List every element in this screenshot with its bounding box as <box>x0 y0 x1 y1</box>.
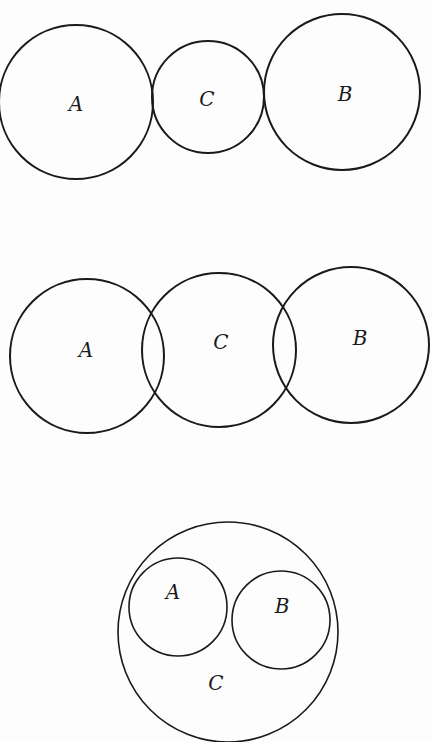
venn-diagrams-canvas: A C B A C B C A B <box>0 0 433 742</box>
circle-a <box>129 558 227 656</box>
label-a: A <box>164 580 180 604</box>
diagram-contained: C A B <box>118 522 338 742</box>
diagram-tangent: A C B <box>0 14 420 179</box>
circle-b <box>232 571 330 669</box>
label-c: C <box>208 671 223 695</box>
label-b: B <box>337 82 353 106</box>
label-c: C <box>199 87 214 111</box>
label-a: A <box>67 92 83 116</box>
circle-c-outer <box>118 522 338 742</box>
label-a: A <box>77 338 93 362</box>
label-b: B <box>352 326 368 350</box>
label-b: B <box>274 594 290 618</box>
diagram-overlapping: A C B <box>10 267 429 433</box>
label-c: C <box>213 330 228 354</box>
